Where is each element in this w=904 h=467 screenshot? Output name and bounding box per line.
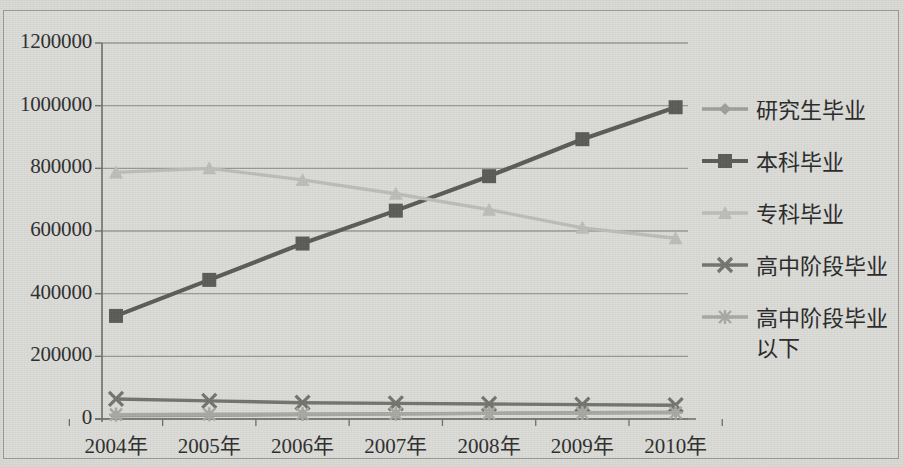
marker-square xyxy=(202,273,216,287)
marker-asterisk xyxy=(482,406,496,420)
series-1 xyxy=(109,100,683,323)
marker-asterisk xyxy=(109,408,123,422)
marker-square xyxy=(389,204,403,218)
marker-asterisk xyxy=(389,407,403,421)
marker-square xyxy=(482,169,496,183)
marker-asterisk xyxy=(202,407,216,421)
marker-square xyxy=(109,309,123,323)
line-chart xyxy=(0,0,904,467)
marker-asterisk xyxy=(669,406,683,420)
series-line xyxy=(116,168,676,238)
series-2 xyxy=(109,161,683,244)
marker-square xyxy=(575,132,589,146)
marker-square xyxy=(669,100,683,114)
marker-asterisk xyxy=(575,406,589,420)
marker-asterisk xyxy=(296,407,310,421)
marker-square xyxy=(296,237,310,251)
